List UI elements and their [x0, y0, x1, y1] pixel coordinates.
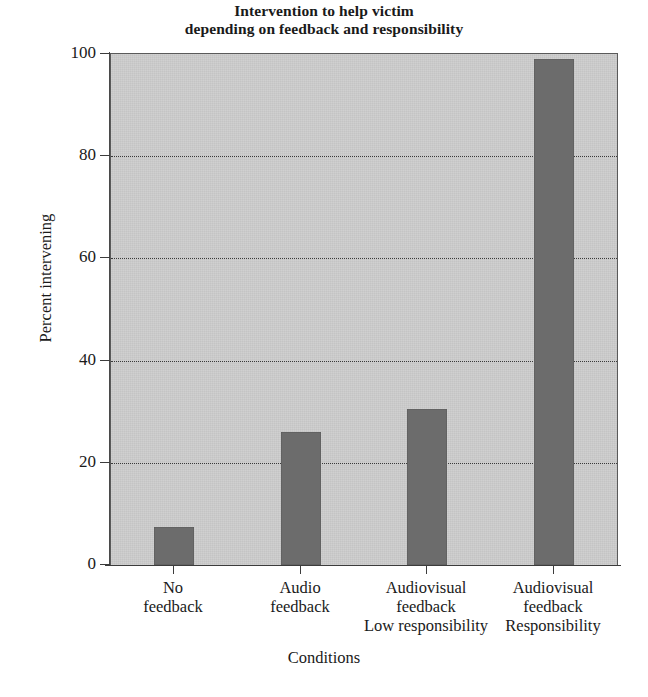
plot-area — [110, 53, 618, 566]
x-axis-title: Conditions — [0, 648, 648, 668]
chart-title: Intervention to help victim depending on… — [0, 2, 648, 38]
x-tick-label-3: AudiovisualfeedbackResponsibility — [469, 578, 637, 635]
x-tick-label-3-line-1: feedback — [469, 597, 637, 616]
y-tick-100 — [100, 53, 110, 54]
x-tick-label-3-line-0: Audiovisual — [469, 578, 637, 597]
bar-0 — [154, 527, 194, 565]
x-tick-label-3-line-2: Responsibility — [469, 616, 637, 635]
y-tick-20 — [100, 462, 110, 463]
y-tick-label-80: 80 — [40, 146, 96, 163]
y-tick-60 — [100, 257, 110, 258]
y-tick-80 — [100, 155, 110, 156]
x-tick-2 — [426, 565, 427, 574]
bar-2 — [407, 409, 447, 565]
x-tick-1 — [300, 565, 301, 574]
x-axis-line — [105, 565, 621, 566]
chart-title-line-2: depending on feedback and responsibility — [0, 20, 648, 38]
x-tick-0 — [173, 565, 174, 574]
y-tick-40 — [100, 360, 110, 361]
y-tick-label-0: 0 — [40, 555, 96, 572]
chart-title-line-1: Intervention to help victim — [0, 2, 648, 20]
y-tick-label-100: 100 — [40, 44, 96, 61]
y-tick-label-20: 20 — [40, 453, 96, 470]
y-tick-0 — [100, 564, 110, 565]
bar-3 — [534, 59, 574, 565]
x-tick-3 — [553, 565, 554, 574]
y-axis-line — [109, 52, 110, 566]
y-axis-title: Percent intervening — [36, 188, 56, 368]
bar-1 — [281, 432, 321, 565]
